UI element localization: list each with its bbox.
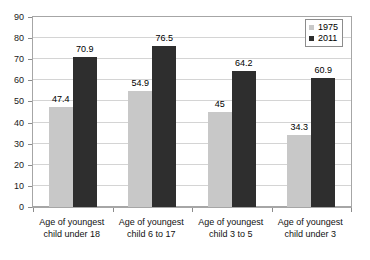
x-category-label: Age of youngest child 6 to 17: [112, 216, 192, 240]
legend-item-2011[interactable]: 2011: [309, 33, 338, 44]
bar-group: 47.470.9: [33, 17, 113, 207]
bar-1975[interactable]: [287, 135, 311, 207]
bar-1975[interactable]: [208, 112, 232, 207]
y-axis: 0102030405060708090: [0, 0, 32, 260]
bar-2011[interactable]: [311, 78, 335, 207]
chart-legend: 19752011: [305, 19, 343, 47]
y-tick-label: 20: [14, 160, 24, 169]
bar-chart: 0102030405060708090 47.470.954.976.54564…: [0, 0, 370, 260]
x-axis-tickmarks: [32, 208, 352, 213]
x-category-label: Age of youngest child under 3: [271, 216, 351, 240]
legend-label: 1975: [318, 22, 338, 33]
y-tick-label: 40: [14, 118, 24, 127]
legend-label: 2011: [318, 33, 337, 44]
bar-1975[interactable]: [49, 107, 73, 207]
bar-value-label: 76.5: [146, 34, 182, 43]
x-tick-mark: [272, 208, 273, 212]
legend-item-1975[interactable]: 1975: [309, 22, 338, 33]
bar-2011[interactable]: [73, 57, 97, 207]
y-tick-label: 0: [19, 203, 24, 212]
bar-group: 4564.2: [192, 17, 272, 207]
y-tick-label: 60: [14, 76, 24, 85]
bar-2011[interactable]: [152, 46, 176, 208]
bar-value-label: 64.2: [226, 59, 262, 68]
x-tick-mark: [113, 208, 114, 212]
y-tick-label: 70: [14, 55, 24, 64]
x-category-label: Age of youngest child 3 to 5: [191, 216, 271, 240]
x-tick-mark: [33, 208, 34, 212]
x-axis: Age of youngest child under 18Age of you…: [32, 216, 352, 256]
bar-1975[interactable]: [128, 91, 152, 207]
x-tick-mark: [192, 208, 193, 212]
y-tick-label: 30: [14, 139, 24, 148]
bars-layer: 47.470.954.976.54564.234.360.9: [33, 17, 351, 207]
x-category-label: Age of youngest child under 18: [32, 216, 112, 240]
bar-value-label: 70.9: [67, 45, 103, 54]
bar-group: 54.976.5: [113, 17, 193, 207]
y-tick-label: 90: [14, 13, 24, 22]
legend-swatch-2011: [309, 36, 314, 41]
y-tick-label: 50: [14, 97, 24, 106]
y-tick-label: 80: [14, 34, 24, 43]
x-tick-mark: [351, 208, 352, 212]
bar-value-label: 60.9: [305, 66, 341, 75]
y-tick-label: 10: [14, 181, 24, 190]
bar-2011[interactable]: [232, 71, 256, 207]
legend-swatch-1975: [309, 25, 314, 30]
